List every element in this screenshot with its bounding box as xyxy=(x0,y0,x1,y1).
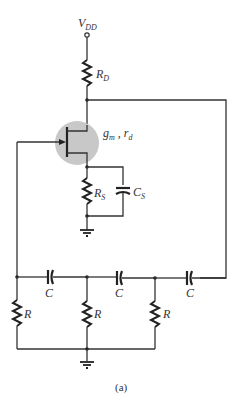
ladder-resistor-label-1: R xyxy=(23,307,32,321)
ladder-capacitor-label-1: C xyxy=(45,286,54,300)
ladder-capacitor-1 xyxy=(52,270,54,284)
figure-caption: (a) xyxy=(115,381,128,394)
ladder-capacitor-3 xyxy=(191,271,193,285)
vdd-label: VDD xyxy=(78,16,97,32)
ladder-resistor-1 xyxy=(13,300,21,326)
vdd-terminal xyxy=(85,33,89,37)
circuit-diagram: VDD RD gm , rd RS CS C C xyxy=(0,0,245,405)
ladder-capacitor-2 xyxy=(121,271,123,285)
source-resistor xyxy=(83,178,91,204)
rd-label: RD xyxy=(95,67,109,83)
wire xyxy=(87,167,123,185)
ladder-capacitor-label-2: C xyxy=(115,286,124,300)
ladder-resistor-label-3: R xyxy=(162,307,171,321)
ladder-resistor-3 xyxy=(151,301,159,327)
rs-label: RS xyxy=(93,186,105,202)
transistor-params-label: gm , rd xyxy=(103,126,133,142)
drain-resistor xyxy=(83,60,91,86)
cs-label: CS xyxy=(133,185,145,201)
ladder-resistor-2 xyxy=(83,301,91,327)
ground-icon xyxy=(80,362,94,368)
ground-icon xyxy=(80,230,94,236)
ladder-capacitor-label-3: C xyxy=(186,286,195,300)
ladder-resistor-label-2: R xyxy=(93,307,102,321)
